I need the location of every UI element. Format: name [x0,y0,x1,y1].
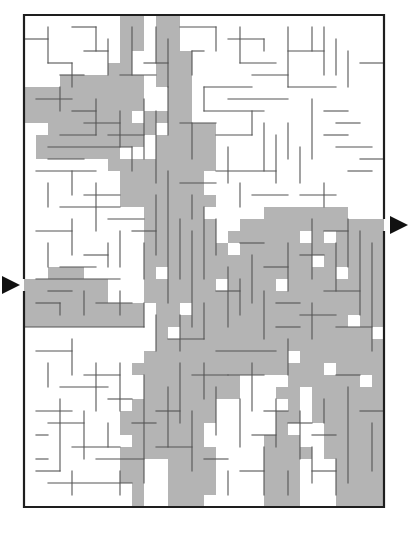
shaded-cell [24,111,132,123]
shaded-cell [36,135,144,147]
unshaded-cell [276,279,288,291]
shaded-cell [144,207,204,219]
shaded-cell [156,147,216,159]
shaded-cell [168,483,216,495]
shaded-cell [144,279,384,291]
shaded-cell [120,15,144,27]
shaded-cell [120,447,216,459]
shaded-cell [336,495,384,507]
maze-canvas [0,0,412,535]
shaded-cell [24,87,144,99]
unshaded-cell [324,231,336,243]
shaded-cell [276,411,300,423]
shaded-cell [48,267,84,279]
shaded-cell [132,495,144,507]
shaded-cell [168,471,216,483]
shaded-cell [48,123,156,135]
unshaded-cell [324,363,336,375]
shaded-cell [264,459,300,471]
shaded-cell [120,471,144,483]
unshaded-cell [216,63,228,75]
unshaded-cell [216,75,228,87]
unshaded-cell [300,231,312,243]
shaded-cell [168,495,204,507]
shaded-cell [336,483,384,495]
shaded-cell [60,75,144,87]
unshaded-cell [156,267,168,279]
shaded-cell [120,171,204,183]
shaded-cell [144,375,240,387]
unshaded-cell [336,267,348,279]
unshaded-cell [288,351,300,363]
shaded-cell [36,147,120,159]
shaded-cell [144,351,384,363]
shaded-cell [336,459,384,471]
unshaded-cell [360,375,372,387]
unshaded-cell [240,207,252,219]
shaded-cell [156,327,168,339]
shaded-cell [264,471,300,483]
unshaded-cell [216,279,228,291]
shaded-cell [276,423,288,435]
shaded-cell [120,423,204,435]
shaded-cell [156,339,384,351]
exit-arrow-icon [390,216,408,234]
entry-arrow-icon [2,276,20,294]
shaded-cell [264,495,300,507]
shaded-cell [108,159,216,171]
shaded-cell [156,63,192,75]
shaded-cell [24,315,144,327]
shaded-cell [132,399,216,411]
shaded-cell [132,363,384,375]
maze-puzzle: Shaded maze puzzle Start Finish [0,0,412,535]
shaded-cell [264,435,300,447]
shaded-cell [120,183,204,195]
unshaded-cell [300,387,312,399]
shaded-cell [168,87,192,99]
shaded-cell [156,75,192,87]
unshaded-cell [384,183,396,195]
unshaded-cell [180,303,192,315]
shaded-cell [180,327,384,339]
shaded-cell [324,435,384,447]
shaded-cell [276,387,384,399]
shaded-cell [132,483,144,495]
shaded-cell [24,291,108,303]
shaded-cell [168,99,192,111]
shaded-cell [156,15,180,27]
shaded-cell [324,423,384,435]
shaded-cell [156,135,216,147]
shaded-cell [108,63,132,75]
shaded-cell [120,459,144,471]
shaded-cell [156,51,192,63]
shaded-cell [336,471,384,483]
unshaded-cell [348,315,360,327]
shaded-cell [120,51,132,63]
shaded-cell [324,447,384,459]
shaded-cell [24,279,108,291]
shaded-cell [288,399,300,411]
shaded-cell [24,99,144,111]
shaded-cell [264,207,348,219]
shaded-cell [264,447,312,459]
shaded-cell [144,387,240,399]
unshaded-cell [312,255,324,267]
unshaded-cell [372,327,384,339]
unshaded-cell [252,207,264,219]
shaded-cell [264,483,300,495]
shaded-cell [144,243,228,255]
shaded-cell [156,27,180,39]
